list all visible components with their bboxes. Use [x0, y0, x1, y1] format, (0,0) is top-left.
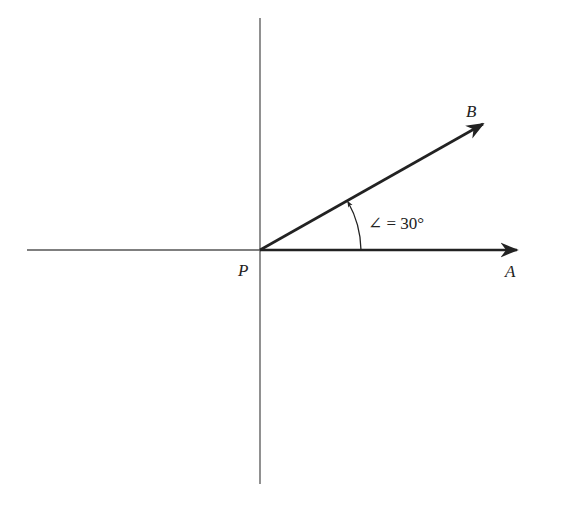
angle-label: ∠ = 30°: [368, 214, 424, 233]
label-a: A: [504, 262, 516, 281]
angle-arc: [348, 202, 361, 250]
label-p: P: [237, 261, 248, 280]
label-b: B: [466, 102, 477, 121]
vector-diagram: P A B ∠ = 30°: [0, 0, 567, 505]
